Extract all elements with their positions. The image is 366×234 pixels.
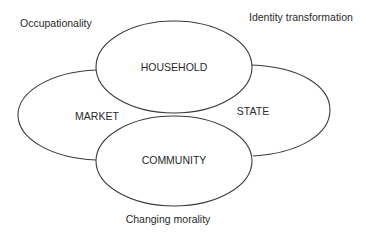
state-label: STATE <box>237 105 269 117</box>
changing-morality-annotation: Changing morality <box>126 213 211 225</box>
market-label: MARKET <box>75 110 119 122</box>
identity-transformation-annotation: Identity transformation <box>249 11 353 23</box>
community-label: COMMUNITY <box>142 154 207 166</box>
four-domain-diagram: HOUSEHOLD COMMUNITY MARKET STATE Occupat… <box>0 0 366 234</box>
household-label: HOUSEHOLD <box>141 61 208 73</box>
occupationality-annotation: Occupationality <box>20 17 93 29</box>
